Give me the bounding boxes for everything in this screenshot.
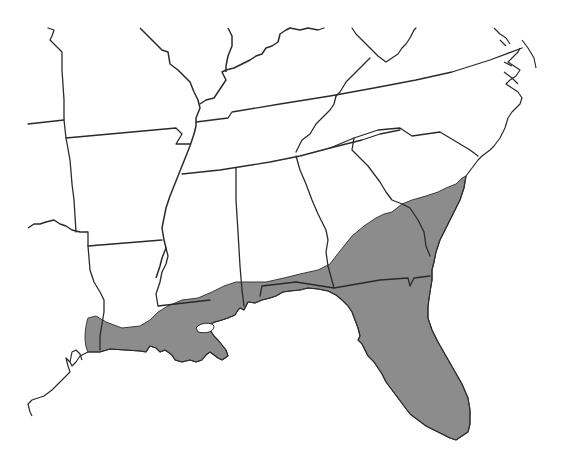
alabama-georgia-border bbox=[296, 156, 334, 288]
map-container bbox=[0, 0, 564, 467]
ohio-river bbox=[200, 28, 290, 104]
tennessee-north-carolina-border bbox=[296, 96, 336, 152]
oklahoma-arkansas-border bbox=[48, 28, 76, 232]
galveston-bay bbox=[70, 350, 82, 362]
red-river bbox=[28, 220, 88, 232]
kentucky-tennessee-virginia-line bbox=[196, 48, 522, 122]
shaded-range-region bbox=[85, 176, 470, 440]
wabash-river bbox=[226, 28, 232, 72]
ky-wv-va-border bbox=[290, 28, 416, 96]
atlantic-coastline bbox=[466, 48, 522, 176]
texas-coastline bbox=[28, 352, 88, 416]
tennessee-south-border bbox=[182, 130, 400, 174]
arkansas-louisiana-border bbox=[88, 240, 162, 246]
oklahoma-kansas-line bbox=[28, 120, 64, 124]
southeast-us-map bbox=[0, 0, 564, 467]
outer-banks bbox=[522, 40, 536, 68]
missouri-arkansas-border bbox=[66, 128, 190, 144]
